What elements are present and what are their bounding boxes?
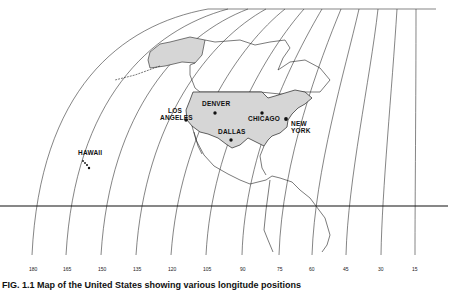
city-label-chicago: CHICAGO (248, 115, 280, 122)
city-label-new: NEW (291, 120, 307, 127)
longitude-label: 75 (277, 266, 283, 272)
south-america-outline (264, 206, 330, 252)
longitude-label: 15 (412, 266, 418, 272)
city-label-angeles: ANGELES (160, 114, 193, 121)
city-label-york: YORK (291, 127, 311, 134)
longitude-label: 150 (98, 266, 107, 272)
hawaii-islands (82, 160, 90, 169)
figure-caption: FIG. 1.1 Map of the United States showin… (2, 280, 301, 290)
aleutian-islands (115, 66, 160, 80)
longitude-label: 135 (133, 266, 142, 272)
baja-california (194, 132, 202, 154)
longitude-labels: 180 165 150 135 120 105 90 75 60 45 30 1… (29, 266, 418, 272)
hawaii-label: HAWAII (78, 149, 102, 156)
city-dot-denver (213, 111, 216, 114)
alaska-shape (148, 37, 205, 68)
longitude-label: 60 (309, 266, 315, 272)
city-label-los: LOS (168, 107, 182, 114)
city-label-dallas: DALLAS (218, 128, 246, 135)
longitude-label: 180 (29, 266, 38, 272)
longitude-label: 120 (168, 266, 177, 272)
city-dot-dallas (229, 138, 232, 141)
city-label-denver: DENVER (202, 100, 230, 107)
longitude-label: 105 (203, 266, 212, 272)
canada-outline (190, 40, 330, 95)
longitude-label: 30 (378, 266, 384, 272)
longitude-label: 165 (63, 266, 72, 272)
longitude-label: 45 (343, 266, 349, 272)
longitude-label: 90 (240, 266, 246, 272)
city-dot-new-york (284, 117, 288, 121)
mexico-central-america-outline (192, 126, 316, 230)
